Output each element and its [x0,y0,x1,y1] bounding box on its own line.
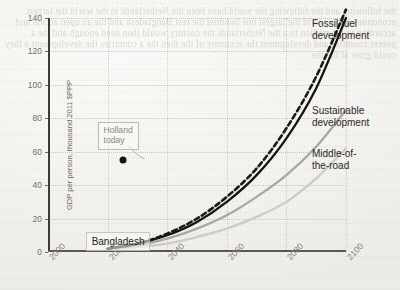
annotation-bangladesh: Bangladesh [86,232,151,251]
curve-fossil-fuel-development-variant [108,10,346,249]
series-label-sustainable: Sustainable development [312,105,369,128]
plot-area: 140 120 100 80 60 40 20 0 2000 2020 2040… [48,18,346,252]
x-tick-label: 2100 [345,241,365,262]
y-tick-label: 40 [33,180,42,190]
y-tick-label: 60 [33,147,42,157]
y-tick-label: 0 [37,247,42,257]
y-tick-label: 140 [28,13,42,23]
gdp-projection-chart: GDP per person, thousand 2011 $PPP 140 1… [0,0,400,290]
annotation-holland-today: Holland today [98,122,139,150]
y-tick-label: 20 [33,214,42,224]
series-curves [48,18,346,252]
y-tick-label: 100 [28,80,42,90]
holland-today-marker [119,157,126,164]
gridline-vertical [346,18,347,252]
y-tick-label: 120 [28,46,42,56]
y-tick-label: 80 [33,113,42,123]
series-label-middle-of-the-road: Middle-of- the-road [312,148,356,171]
series-label-fossil-fuel: Fossil fuel development [312,18,369,41]
